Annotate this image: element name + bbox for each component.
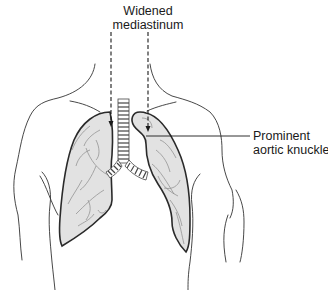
- label-line-1: Widened: [113, 4, 184, 18]
- label-line-1: Prominent: [253, 129, 328, 143]
- label-line-2: aortic knuckle: [253, 143, 328, 157]
- prominent-aortic-knuckle-label: Prominent aortic knuckle: [253, 129, 328, 157]
- chest-diagram: Widened mediastinum Prominent aortic knu…: [0, 0, 328, 290]
- right-lung: [132, 112, 190, 252]
- body-outline: [14, 64, 244, 290]
- label-line-2: mediastinum: [113, 18, 184, 32]
- left-lung: [60, 112, 113, 246]
- widened-mediastinum-label: Widened mediastinum: [113, 4, 184, 32]
